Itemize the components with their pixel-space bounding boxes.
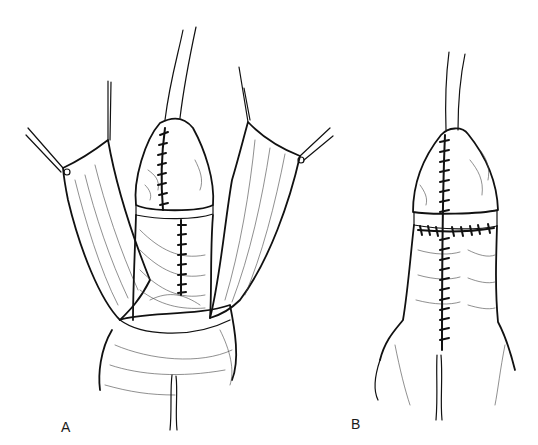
panel-b-drawing bbox=[375, 52, 515, 420]
catheter-b-edge bbox=[458, 54, 465, 130]
suture-line-glans-a bbox=[162, 128, 165, 210]
right-flap bbox=[210, 122, 300, 318]
surgical-illustration: A B bbox=[0, 0, 538, 445]
raphe-b bbox=[436, 355, 442, 420]
catheter-a bbox=[165, 30, 183, 120]
stay-suture-left-outer-2 bbox=[26, 135, 61, 172]
catheter-b bbox=[446, 52, 449, 130]
illustration-svg bbox=[0, 0, 538, 445]
panel-label-b: B bbox=[351, 416, 360, 432]
stay-suture-right-top bbox=[239, 67, 248, 122]
glans-a bbox=[136, 118, 214, 210]
left-flap-stitch bbox=[64, 169, 70, 175]
stay-suture-left-top-2 bbox=[110, 82, 111, 140]
panel-label-a: A bbox=[61, 419, 70, 435]
suture-line-midline-b bbox=[442, 135, 445, 350]
panel-a-drawing bbox=[26, 27, 333, 430]
raphe-a bbox=[170, 375, 177, 430]
catheter-a-edge bbox=[180, 27, 196, 118]
stay-suture-left-outer bbox=[28, 128, 63, 168]
glans-b bbox=[413, 128, 498, 213]
left-flap bbox=[63, 140, 150, 320]
base-a bbox=[99, 305, 236, 390]
